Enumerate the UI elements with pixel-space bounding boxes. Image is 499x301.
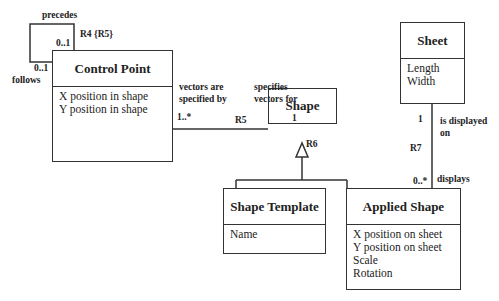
r7-role-a-line2: on xyxy=(440,128,450,139)
attribute: Name xyxy=(230,228,319,241)
class-shape-template[interactable]: Shape Template Name xyxy=(223,188,326,254)
r4-mult-b: 0..1 xyxy=(34,63,48,74)
class-control-point[interactable]: Control Point X position in shape Y posi… xyxy=(52,50,173,162)
r5-role-a-line1: vectors are xyxy=(179,82,223,93)
attribute: Length xyxy=(407,62,458,75)
r7-mult-b: 0..* xyxy=(413,176,427,187)
r6-id: R6 xyxy=(306,139,318,150)
class-name: Control Point xyxy=(53,51,172,87)
r4-mult-a: 0..1 xyxy=(56,38,70,49)
r5-role-b-line2: vectors for xyxy=(254,94,298,105)
r7-mult-a: 1 xyxy=(418,114,423,125)
r7-role-a-line1: is displayed xyxy=(440,116,487,127)
attribute: X position on sheet xyxy=(353,228,454,241)
r5-mult-a: 1..* xyxy=(177,112,191,123)
attribute: Y position in shape xyxy=(59,103,166,116)
r7-role-b: displays xyxy=(437,174,470,185)
class-sheet[interactable]: Sheet Length Width xyxy=(400,22,465,104)
attribute: Y position on sheet xyxy=(353,241,454,254)
r5-id: R5 xyxy=(235,115,247,126)
r5-role-a-line2: specified by xyxy=(179,94,227,105)
attribute: Scale xyxy=(353,254,454,267)
class-applied-shape[interactable]: Applied Shape X position on sheet Y posi… xyxy=(346,188,461,290)
r4-id: R4 {R5} xyxy=(80,29,113,40)
r4-role-follows: follows xyxy=(12,75,41,86)
r4-role-precedes: precedes xyxy=(42,10,77,21)
r5-role-b-line1: specifies xyxy=(254,82,288,93)
class-name: Shape Template xyxy=(224,189,325,225)
r7-id: R7 xyxy=(410,143,422,154)
class-name: Sheet xyxy=(401,23,464,59)
class-name: Applied Shape xyxy=(347,189,460,225)
attribute: Width xyxy=(407,75,458,88)
r5-mult-b: 1 xyxy=(292,113,297,124)
attribute: Rotation xyxy=(353,267,454,280)
attribute: X position in shape xyxy=(59,90,166,103)
